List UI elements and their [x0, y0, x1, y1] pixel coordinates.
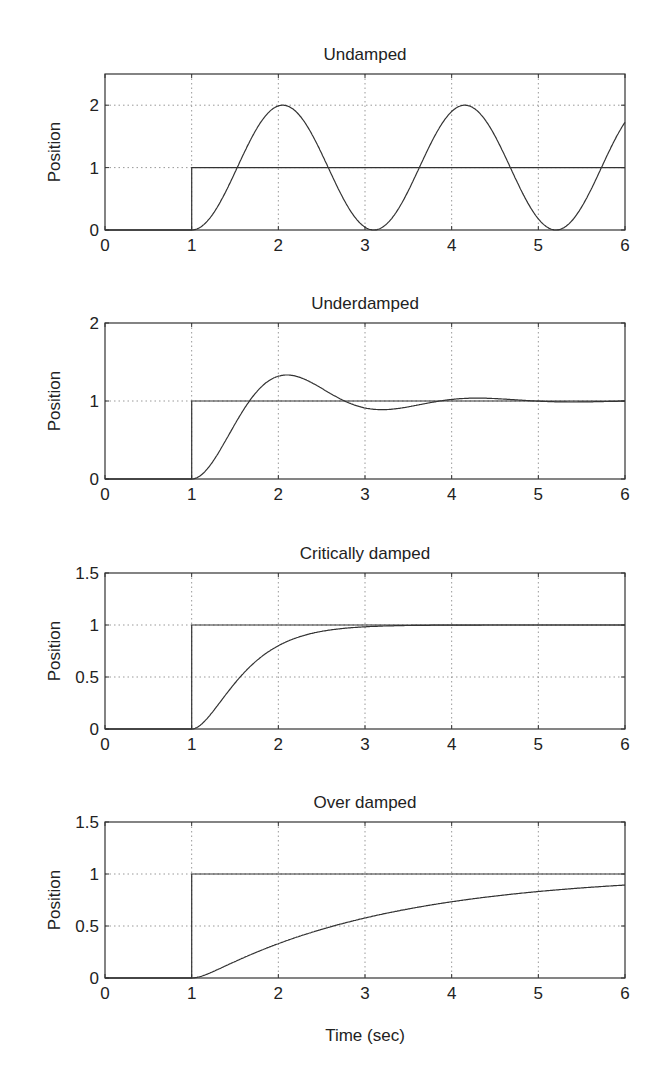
- y-tick-label: 1: [90, 865, 99, 884]
- x-tick-label: 3: [360, 984, 369, 1003]
- y-tick-label: 0: [90, 221, 99, 240]
- x-tick-label: 2: [274, 236, 283, 255]
- x-tick-label: 4: [447, 485, 456, 504]
- y-tick-label: 0.5: [75, 668, 99, 687]
- step-input-line: [105, 168, 625, 230]
- y-tick-label: 0: [90, 720, 99, 739]
- x-tick-label: 2: [274, 485, 283, 504]
- y-tick-label: 0: [90, 969, 99, 988]
- y-tick-label: 1: [90, 616, 99, 635]
- x-tick-label: 1: [187, 485, 196, 504]
- x-tick-label: 0: [100, 735, 109, 754]
- x-tick-label: 1: [187, 735, 196, 754]
- chart-title: Critically damped: [300, 544, 430, 563]
- x-tick-label: 4: [447, 735, 456, 754]
- x-tick-label: 6: [620, 485, 629, 504]
- x-axis-label: Time (sec): [325, 1026, 405, 1045]
- x-tick-label: 3: [360, 735, 369, 754]
- x-tick-label: 2: [274, 984, 283, 1003]
- y-tick-label: 0.5: [75, 917, 99, 936]
- chart-title: Underdamped: [311, 294, 419, 313]
- x-tick-label: 5: [534, 236, 543, 255]
- y-tick-label: 2: [90, 314, 99, 333]
- x-tick-label: 1: [187, 984, 196, 1003]
- y-tick-label: 0: [90, 470, 99, 489]
- x-tick-label: 1: [187, 236, 196, 255]
- y-axis-label: Position: [45, 870, 64, 930]
- x-tick-label: 0: [100, 236, 109, 255]
- x-tick-label: 2: [274, 735, 283, 754]
- x-tick-label: 5: [534, 485, 543, 504]
- y-tick-label: 1.5: [75, 564, 99, 583]
- x-tick-label: 5: [534, 984, 543, 1003]
- figure: Undamped0123456012PositionUnderdamped012…: [0, 0, 659, 1082]
- y-axis-label: Position: [45, 371, 64, 431]
- x-tick-label: 3: [360, 236, 369, 255]
- y-tick-label: 2: [90, 96, 99, 115]
- x-tick-label: 6: [620, 984, 629, 1003]
- y-axis-label: Position: [45, 122, 64, 182]
- x-tick-label: 3: [360, 485, 369, 504]
- x-tick-label: 0: [100, 485, 109, 504]
- x-tick-label: 4: [447, 984, 456, 1003]
- chart-title: Undamped: [323, 45, 406, 64]
- y-tick-label: 1: [90, 159, 99, 178]
- y-axis-label: Position: [45, 621, 64, 681]
- x-tick-label: 5: [534, 735, 543, 754]
- x-tick-label: 6: [620, 236, 629, 255]
- x-tick-label: 4: [447, 236, 456, 255]
- x-tick-label: 6: [620, 735, 629, 754]
- y-tick-label: 1.5: [75, 813, 99, 832]
- chart-title: Over damped: [314, 793, 417, 812]
- x-tick-label: 0: [100, 984, 109, 1003]
- y-tick-label: 1: [90, 392, 99, 411]
